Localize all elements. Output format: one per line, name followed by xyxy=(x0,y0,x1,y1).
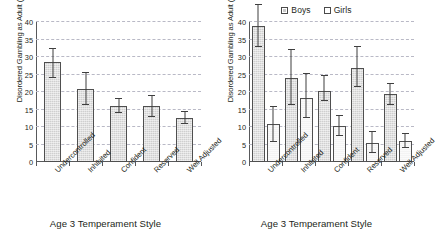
error-bar-cap-upper xyxy=(369,131,376,132)
axes-right: 0510152025303540 UndercontrolledInhibite… xyxy=(249,22,414,162)
error-bar-cap-upper xyxy=(303,73,310,74)
error-bar xyxy=(151,96,152,118)
y-tick-label-25: 25 xyxy=(25,70,33,79)
error-bar xyxy=(258,5,259,47)
error-bar-cap-upper xyxy=(402,133,409,134)
bars-right xyxy=(249,22,414,162)
y-tick-label-35: 35 xyxy=(238,35,246,44)
error-bar-cap-upper xyxy=(288,49,295,50)
error-bar-cap-upper xyxy=(321,75,328,76)
bar-slot[interactable] xyxy=(176,22,193,162)
y-tick-label-5: 5 xyxy=(242,140,246,149)
error-bar xyxy=(118,99,119,113)
error-bar-cap-upper xyxy=(148,95,155,96)
error-bar-cap-lower xyxy=(303,117,310,118)
error-bar xyxy=(372,132,373,153)
y-tick-label-10: 10 xyxy=(238,123,246,132)
error-bar-cap-upper xyxy=(115,98,122,99)
error-bar-cap-upper xyxy=(387,83,394,84)
error-bar-cap-lower xyxy=(369,152,376,153)
bar-group xyxy=(168,22,201,162)
x-tick xyxy=(249,162,250,166)
error-bar xyxy=(291,50,292,105)
y-tick-label-40: 40 xyxy=(238,18,246,27)
error-bar xyxy=(273,107,274,142)
bar-group xyxy=(102,22,135,162)
error-bar-cap-lower xyxy=(354,86,361,87)
y-tick-label-40: 40 xyxy=(25,18,33,27)
bar-group xyxy=(381,22,414,162)
bar-slot[interactable] xyxy=(252,22,265,162)
error-bar-cap-lower xyxy=(402,147,409,148)
y-tick-label-10: 10 xyxy=(25,123,33,132)
bar-slot[interactable] xyxy=(351,22,364,162)
error-bar xyxy=(52,49,53,78)
y-tick-label-0: 0 xyxy=(29,158,33,167)
bar-group xyxy=(36,22,69,162)
bar-slot[interactable] xyxy=(399,22,412,162)
error-bar-cap-lower xyxy=(270,141,277,142)
y-tick-label-0: 0 xyxy=(242,158,246,167)
y-tick-label-15: 15 xyxy=(238,105,246,114)
error-bar-cap-lower xyxy=(181,123,188,124)
bar-slot[interactable] xyxy=(318,22,331,162)
error-bar-cap-upper xyxy=(270,106,277,107)
error-bar xyxy=(85,73,86,105)
error-bar-cap-lower xyxy=(148,116,155,117)
bar-slot[interactable] xyxy=(333,22,346,162)
plot-area-left: Disordered Gambling as Adult (%) 0510152… xyxy=(0,0,211,247)
bar-slot[interactable] xyxy=(267,22,280,162)
axes-left: 0510152025303540 UndercontrolledInhibite… xyxy=(36,22,201,162)
error-bar-cap-lower xyxy=(288,104,295,105)
y-tick-label-15: 15 xyxy=(25,105,33,114)
bars-left xyxy=(36,22,201,162)
error-bar xyxy=(405,134,406,148)
x-axis-title-right: Age 3 Temperament Style xyxy=(211,218,422,229)
bar-slot[interactable] xyxy=(143,22,160,162)
error-bar-cap-upper xyxy=(354,46,361,47)
error-bar-cap-lower xyxy=(49,77,56,78)
bar-slot[interactable] xyxy=(44,22,61,162)
bar-group xyxy=(249,22,282,162)
x-tick xyxy=(36,162,37,166)
error-bar xyxy=(390,84,391,105)
error-bar xyxy=(324,76,325,101)
error-bar-cap-lower xyxy=(255,46,262,47)
bar-slot[interactable] xyxy=(110,22,127,162)
error-bar xyxy=(339,116,340,136)
y-tick-label-25: 25 xyxy=(238,70,246,79)
y-tick-label-20: 20 xyxy=(25,88,33,97)
chart-panel-right: Boys Girls Disordered Gambling as Adult … xyxy=(211,0,422,247)
plot-area-right: Disordered Gambling as Adult (%) 0510152… xyxy=(211,0,422,247)
error-bar-cap-upper xyxy=(336,115,343,116)
chart-panel-left: Disordered Gambling as Adult (%) 0510152… xyxy=(0,0,211,247)
bar-group xyxy=(315,22,348,162)
bar-group xyxy=(348,22,381,162)
y-tick-label-5: 5 xyxy=(29,140,33,149)
error-bar-cap-lower xyxy=(115,112,122,113)
error-bar xyxy=(357,47,358,87)
error-bar-cap-lower xyxy=(387,104,394,105)
bar-slot[interactable] xyxy=(384,22,397,162)
error-bar-cap-lower xyxy=(82,104,89,105)
y-tick-label-30: 30 xyxy=(25,53,33,62)
error-bar-cap-upper xyxy=(49,48,56,49)
error-bar-cap-lower xyxy=(321,100,328,101)
error-bar xyxy=(306,74,307,118)
y-tick-label-30: 30 xyxy=(238,53,246,62)
y-axis-title-left: Disordered Gambling as Adult (%) xyxy=(15,0,24,112)
error-bar-cap-upper xyxy=(255,4,262,5)
error-bar-cap-lower xyxy=(336,135,343,136)
bar-slot[interactable] xyxy=(366,22,379,162)
bar-group xyxy=(135,22,168,162)
y-tick-label-20: 20 xyxy=(238,88,246,97)
error-bar-cap-upper xyxy=(82,72,89,73)
x-axis-title-left: Age 3 Temperament Style xyxy=(0,218,211,229)
y-tick-label-35: 35 xyxy=(25,35,33,44)
y-axis-title-right: Disordered Gambling as Adult (%) xyxy=(226,0,235,112)
error-bar-cap-upper xyxy=(181,111,188,112)
bar[interactable] xyxy=(176,118,193,162)
